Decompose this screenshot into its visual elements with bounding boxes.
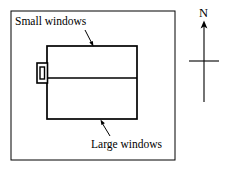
- north-label: N: [199, 7, 208, 20]
- small-windows-label: Small windows: [15, 16, 86, 28]
- building-outline-rect: [47, 46, 137, 119]
- small-window-inner-rect: [40, 67, 45, 79]
- large-windows-label: Large windows: [91, 139, 162, 151]
- floor-plan-diagram: Small windows Large windows N: [0, 0, 230, 169]
- large-windows-leader-arrowhead: [101, 120, 105, 126]
